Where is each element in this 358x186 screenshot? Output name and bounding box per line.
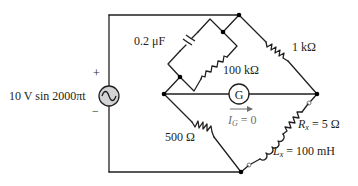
ac-voltage-source bbox=[99, 86, 119, 106]
wire-rc-to-left-node bbox=[164, 77, 180, 94]
galvanometer-current-label: IG = 0 bbox=[227, 113, 257, 128]
capacitor-label: 0.2 μF bbox=[134, 34, 165, 48]
wire-1k-a bbox=[239, 15, 266, 42]
node-bottom bbox=[239, 170, 244, 175]
resistor-1k-label: 1 kΩ bbox=[292, 40, 316, 54]
resistor-1k-icon bbox=[266, 42, 288, 61]
source-label: 10 V sin 2000πt bbox=[9, 89, 86, 103]
parallel-resistor-label: 100 kΩ bbox=[223, 63, 259, 77]
resistor-500-icon bbox=[192, 121, 214, 137]
node-rc-upper bbox=[221, 30, 226, 35]
source-minus-sign: − bbox=[92, 104, 99, 118]
wire-cap-branch-b bbox=[168, 51, 180, 77]
wire-cap-branch-a bbox=[198, 19, 223, 32]
wire-500-a bbox=[164, 94, 192, 122]
galvanometer-label: G bbox=[235, 88, 244, 102]
node-left bbox=[162, 92, 167, 97]
node-rc-lower bbox=[178, 75, 183, 80]
capacitor bbox=[180, 32, 198, 51]
resistor-500-label: 500 Ω bbox=[165, 130, 195, 144]
wire-res-branch-a bbox=[223, 32, 237, 57]
circuit-diagram: + − 10 V sin 2000πt 0.2 μF 100 kΩ 1 kΩ G… bbox=[0, 0, 358, 186]
wire-res-branch-b bbox=[180, 77, 201, 91]
wire-lx-lead bbox=[251, 159, 260, 164]
node-right bbox=[315, 92, 320, 97]
rx-label: Rx = 5 Ω bbox=[297, 117, 340, 132]
node-top bbox=[237, 13, 242, 18]
wire-500-b bbox=[214, 137, 241, 172]
wire-rx-lead bbox=[302, 104, 308, 112]
wire-1k-b bbox=[288, 61, 317, 94]
source-plus-sign: + bbox=[93, 66, 100, 80]
capacitor-plate-2 bbox=[183, 39, 192, 45]
wire-top-to-rc bbox=[223, 15, 239, 32]
lx-label: Lx = 100 mH bbox=[272, 144, 335, 159]
